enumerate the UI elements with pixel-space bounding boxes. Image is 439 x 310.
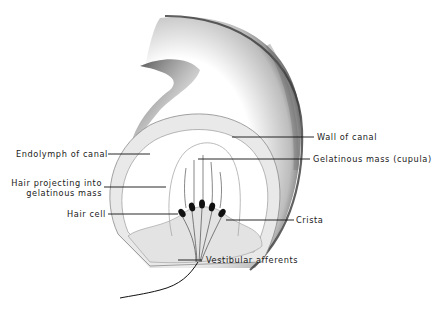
label-vestibular-afferents: Vestibular afferents <box>206 255 298 265</box>
label-hair-projecting-1: Hair projecting into <box>11 178 102 188</box>
label-hair-projecting-2: gelatinous mass <box>26 188 102 198</box>
label-wall-of-canal: Wall of canal <box>317 132 377 142</box>
label-crista: Crista <box>296 215 323 225</box>
label-endolymph: Endolymph of canal <box>16 149 108 159</box>
label-gelatinous-mass: Gelatinous mass (cupula) <box>313 154 432 164</box>
label-hair-cell: Hair cell <box>67 209 106 219</box>
ampulla-diagram: Wall of canal Endolymph of canal Gelatin… <box>0 0 439 310</box>
